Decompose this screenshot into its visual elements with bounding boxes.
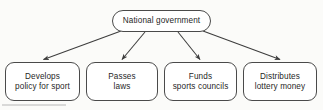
node-distributes-lottery-money[interactable]: Distributes lottery money — [243, 62, 317, 101]
node-label-line: lottery money — [255, 82, 305, 92]
node-label-line: Passes — [108, 72, 135, 82]
arrow-to-funds-sports-councils — [178, 32, 200, 60]
page-edge-artifact — [2, 104, 66, 106]
arrow-to-distributes-lottery-money — [203, 31, 280, 60]
node-passes-laws[interactable]: Passes laws — [86, 62, 158, 101]
node-label-line: Funds — [189, 72, 212, 82]
arrow-to-develops-policy-for-sport — [44, 31, 122, 60]
arrow-to-passes-laws — [122, 32, 145, 60]
node-label-line: Distributes — [260, 72, 300, 82]
node-develops-policy-for-sport[interactable]: Develops policy for sport — [5, 62, 80, 101]
node-label-line: Develops — [25, 72, 60, 82]
node-national-government[interactable]: National government — [112, 10, 211, 32]
node-label-line: laws — [114, 82, 131, 92]
node-label-line: National government — [123, 16, 200, 26]
diagram-canvas: National government Develops policy for … — [0, 0, 323, 110]
node-label-line: sports councils — [173, 82, 229, 92]
node-funds-sports-councils[interactable]: Funds sports councils — [164, 62, 237, 101]
node-label-line: policy for sport — [15, 82, 70, 92]
